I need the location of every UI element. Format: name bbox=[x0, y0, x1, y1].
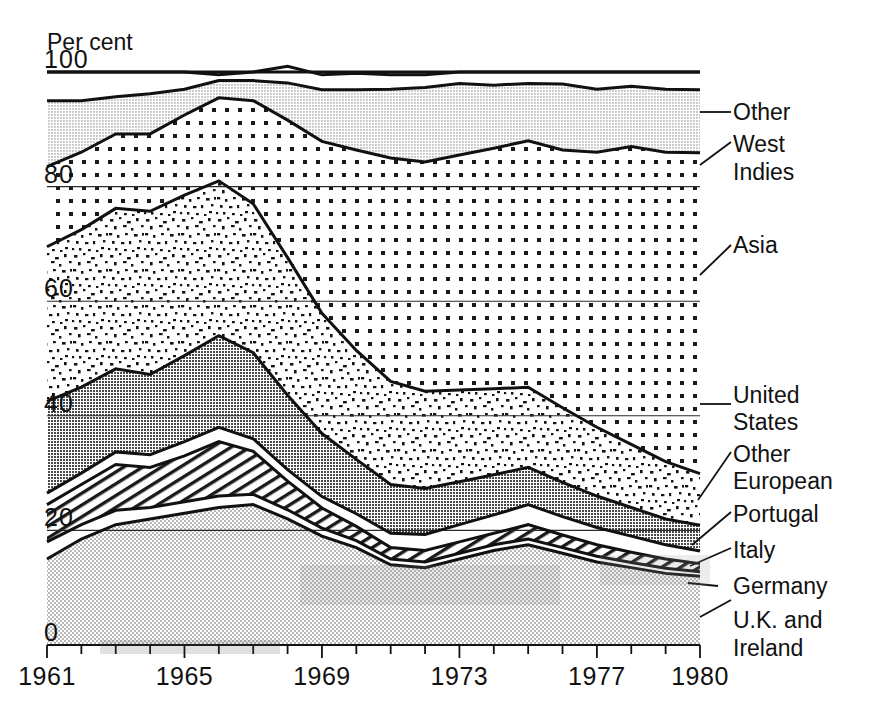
x-tick-label-1965: 1965 bbox=[156, 662, 214, 690]
series-label-united-states-line2: States bbox=[733, 409, 798, 435]
series-label-asia: Asia bbox=[733, 232, 778, 258]
series-label-west-indies-line2: Indies bbox=[733, 159, 794, 185]
series-label-portugal: Portugal bbox=[733, 501, 819, 527]
series-label-other-european-line2: European bbox=[733, 468, 833, 494]
y-tick-label-80: 80 bbox=[44, 160, 74, 188]
series-label-other-european-line1: Other bbox=[733, 441, 791, 467]
series-label-united-states-line1: United bbox=[733, 382, 799, 408]
x-tick-label-1977: 1977 bbox=[568, 662, 626, 690]
y-tick-label-0: 0 bbox=[44, 618, 59, 646]
y-tick-label-60: 60 bbox=[44, 274, 74, 302]
x-tick-label-1973: 1973 bbox=[431, 662, 489, 690]
x-tick-label-1980: 1980 bbox=[671, 662, 729, 690]
chart-svg: 100806040200 196119651969197319771980 Pe… bbox=[0, 0, 873, 705]
x-tick-label-1969: 1969 bbox=[293, 662, 351, 690]
series-label-uk-ireland-line1: U.K. and bbox=[733, 607, 823, 633]
series-label-uk-ireland-line2: Ireland bbox=[733, 635, 803, 661]
y-tick-label-20: 20 bbox=[44, 503, 74, 531]
immigration-source-stacked-area-chart: 100806040200 196119651969197319771980 Pe… bbox=[0, 0, 873, 705]
y-tick-label-40: 40 bbox=[44, 389, 74, 417]
y-axis-unit-label: Per cent bbox=[47, 29, 133, 55]
series-label-west-indies-line1: West bbox=[733, 131, 786, 157]
series-label-other: Other bbox=[733, 99, 791, 125]
series-label-italy: Italy bbox=[733, 537, 776, 563]
x-tick-label-1961: 1961 bbox=[18, 662, 76, 690]
series-label-germany: Germany bbox=[733, 573, 828, 599]
